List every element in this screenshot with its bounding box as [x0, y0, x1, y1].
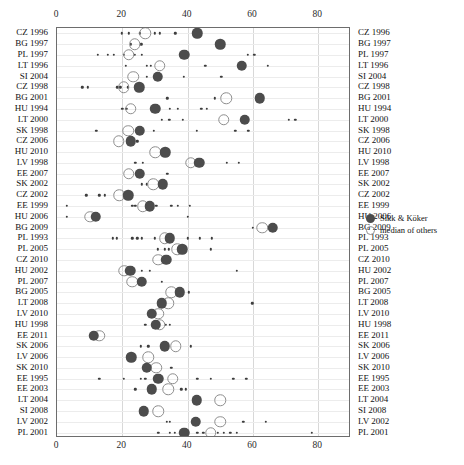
legend-label-median: median of others [380, 224, 437, 236]
row-label-left: SK 2006 [16, 341, 48, 350]
row-label-right: BG 2005 [358, 287, 391, 296]
x-axis-bottom-labels: 020406080 [56, 440, 350, 456]
row-label-left: PL 2005 [18, 244, 48, 253]
row-label-left: HU 2006 [15, 211, 48, 220]
row-label-left: PL 2007 [18, 276, 48, 285]
row-label-right: SI 2004 [358, 71, 386, 80]
data-point-main [153, 373, 164, 384]
data-point-main [139, 406, 150, 417]
row-label-right: PL 1997 [358, 49, 388, 58]
data-point-main [192, 395, 203, 406]
x-tick-label-80: 80 [313, 9, 323, 19]
row-label-left: HU 1994 [15, 103, 48, 112]
data-point-main [146, 384, 157, 395]
row-label-right: HU 1994 [358, 103, 391, 112]
row-labels-left: CZ 1996BG 1997PL 1997LT 1996SI 2004CZ 19… [0, 27, 52, 437]
data-point-main [150, 104, 161, 115]
chart-legend: Sikk & Köker median of others [366, 212, 437, 237]
row-label-right: EE 2011 [358, 330, 389, 339]
data-point-median [123, 168, 135, 180]
gridline-row [57, 87, 349, 88]
row-label-left: SI 2004 [20, 71, 48, 80]
x-tick-label-40: 40 [182, 9, 192, 19]
row-label-left: LT 2004 [18, 395, 48, 404]
row-label-right: PL 2007 [358, 276, 388, 285]
row-label-right: PL 2001 [358, 427, 388, 436]
row-label-right: CZ 2010 [358, 254, 390, 263]
row-label-right: HU 1998 [358, 319, 391, 328]
gridline-row [57, 174, 349, 175]
data-point-main [145, 201, 156, 212]
data-point-main [215, 39, 226, 50]
gridline-x-80 [318, 28, 319, 436]
data-point-main [135, 125, 146, 136]
data-point-main [135, 168, 146, 179]
legend-entry-main: Sikk & Köker [366, 212, 437, 224]
row-label-right: EE 2003 [358, 384, 389, 393]
data-point-main [179, 50, 190, 61]
row-label-right: SK 2010 [358, 362, 390, 371]
data-point-main [240, 114, 251, 125]
row-label-right: LV 2010 [358, 308, 389, 317]
scatter-chart: 020406080 020406080 CZ 1996BG 1997PL 199… [0, 0, 464, 465]
x-tick-label-0: 0 [54, 9, 59, 19]
data-point-main [254, 93, 265, 104]
gridline-row [57, 131, 349, 132]
gridline-row [57, 238, 349, 239]
data-point-main [146, 309, 157, 320]
gridline-row [57, 379, 349, 380]
gridline-row [57, 282, 349, 283]
data-point-main [160, 147, 171, 158]
data-point-median [154, 60, 166, 72]
data-point-median [256, 222, 268, 234]
gridline-row [57, 400, 349, 401]
data-point-main [123, 190, 134, 201]
row-label-left: LT 2008 [18, 298, 48, 307]
data-point-median [128, 71, 140, 83]
gridline-row [57, 66, 349, 67]
legend-label-main: Sikk & Köker [380, 212, 428, 224]
x-tick-label-20: 20 [117, 440, 127, 450]
x-tick-label-20: 20 [117, 9, 127, 19]
gridline-row [57, 44, 349, 45]
row-label-left: BG 2001 [15, 93, 48, 102]
gridline-row [57, 249, 349, 250]
row-label-right: LV 1998 [358, 157, 389, 166]
data-point-median [162, 384, 174, 396]
row-label-left: EE 1995 [17, 373, 48, 382]
gridline-x-40 [188, 28, 189, 436]
row-label-right: SK 1998 [358, 125, 390, 134]
gridline-row [57, 55, 349, 56]
data-point-main [194, 158, 205, 169]
row-label-right: EE 1999 [358, 201, 389, 210]
gridline-row [57, 260, 349, 261]
data-point-main [126, 352, 137, 363]
row-label-right: LV 2002 [358, 416, 389, 425]
open-circle-icon [366, 226, 375, 235]
row-label-left: BG 2009 [15, 222, 48, 231]
data-point-main [177, 244, 188, 255]
gridline-row [57, 33, 349, 34]
plot-area [56, 27, 350, 437]
gridline-x-60 [253, 28, 254, 436]
data-point-median [113, 136, 125, 148]
row-label-left: HU 2010 [15, 147, 48, 156]
data-point-median [205, 427, 217, 437]
row-label-left: PL 1993 [18, 233, 48, 242]
gridline-row [57, 314, 349, 315]
data-point-main [137, 276, 148, 287]
row-label-left: HU 1998 [15, 319, 48, 328]
data-point-median [123, 49, 135, 61]
row-label-left: CZ 1998 [16, 82, 48, 91]
row-label-left: HU 2002 [15, 265, 48, 274]
x-tick-label-0: 0 [54, 440, 59, 450]
data-point-main [192, 28, 203, 39]
row-label-left: CZ 2002 [16, 190, 48, 199]
row-label-left: SK 2010 [16, 362, 48, 371]
row-label-right: CZ 2006 [358, 136, 390, 145]
x-tick-label-40: 40 [182, 440, 192, 450]
gridline-row [57, 228, 349, 229]
data-point-main [142, 363, 153, 374]
data-point-median [167, 373, 179, 385]
row-label-left: PL 1997 [18, 49, 48, 58]
